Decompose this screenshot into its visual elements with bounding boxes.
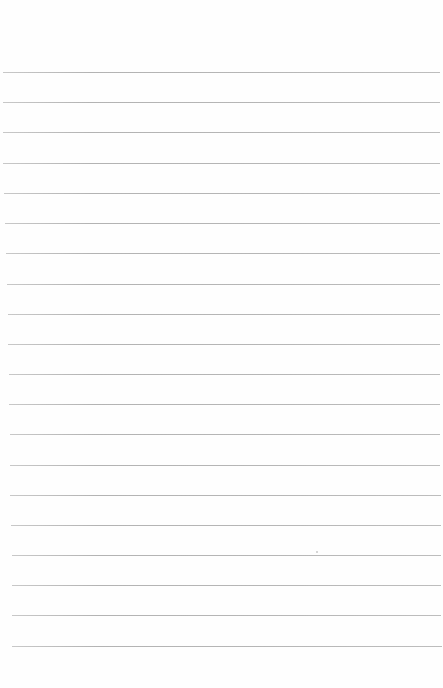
ruled-line (12, 615, 441, 616)
notebook-page (0, 0, 443, 688)
ruled-line (9, 404, 440, 405)
ruled-line (7, 284, 440, 285)
ruled-line (10, 465, 440, 466)
ruled-line (3, 72, 440, 73)
paper-speck (316, 551, 318, 553)
ruled-line (12, 585, 441, 586)
ruled-line (10, 495, 441, 496)
ruled-line (12, 646, 442, 647)
ruled-line (10, 434, 440, 435)
ruled-line (9, 374, 440, 375)
ruled-line (3, 132, 440, 133)
ruled-line (11, 525, 441, 526)
ruled-line (5, 223, 440, 224)
ruled-line (8, 344, 440, 345)
ruled-line (12, 555, 441, 556)
ruled-line (6, 253, 440, 254)
ruled-line (3, 102, 440, 103)
ruled-line (4, 193, 440, 194)
ruled-line (3, 163, 440, 164)
ruled-line (8, 314, 440, 315)
